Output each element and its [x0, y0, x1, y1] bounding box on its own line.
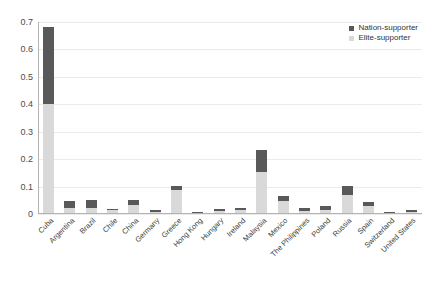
x-label-column: Brazil [81, 215, 102, 283]
bar-column [123, 22, 144, 214]
bar-column [230, 22, 251, 214]
legend-swatch-icon [349, 36, 354, 41]
bar-stack [86, 200, 97, 214]
bar-segment-nation-supporter [86, 200, 97, 208]
plot-area: 00.10.20.30.40.50.60.7 [38, 22, 422, 214]
x-axis-labels: CubaArgentinaBrazilChileChinaGermanyGree… [38, 215, 422, 283]
bars-layer [38, 22, 422, 214]
x-label-column: Hong Kong [187, 215, 208, 283]
bar-segment-nation-supporter [43, 27, 54, 104]
x-label-column: Ireland [230, 215, 251, 283]
y-axis-tick-label: 0.2 [20, 154, 33, 164]
bar-column [166, 22, 187, 214]
bar-column [401, 22, 422, 214]
x-label-column: Cuba [38, 215, 59, 283]
bar-stack [342, 186, 353, 214]
bar-stack [256, 150, 267, 214]
bar-stack [128, 200, 139, 214]
x-label-column: Hungary [209, 215, 230, 283]
bar-stack [171, 186, 182, 214]
bar-segment-nation-supporter [342, 186, 353, 195]
stacked-bar-chart: 00.10.20.30.40.50.60.7 CubaArgentinaBraz… [0, 0, 430, 284]
bar-column [209, 22, 230, 214]
bar-column [337, 22, 358, 214]
bar-column [81, 22, 102, 214]
x-axis-tick-label: Brazil [78, 216, 98, 236]
legend-label: Nation-supporter [358, 24, 418, 32]
y-axis-tick-label: 0.6 [20, 44, 33, 54]
y-axis-tick-label: 0.3 [20, 127, 33, 137]
bar-column [102, 22, 123, 214]
x-label-column: Chile [102, 215, 123, 283]
x-label-column: Argentina [59, 215, 80, 283]
x-label-column: Russia [337, 215, 358, 283]
bar-segment-elite-supporter [342, 195, 353, 214]
legend-label: Elite-supporter [358, 34, 410, 42]
bar-segment-elite-supporter [256, 172, 267, 215]
y-axis-tick-label: 0 [28, 209, 33, 219]
legend-item: Nation-supporter [349, 24, 418, 32]
x-axis-tick-label: Chile [101, 216, 119, 234]
x-label-column: United States [401, 215, 422, 283]
bar-segment-elite-supporter [171, 190, 182, 214]
bar-column [59, 22, 80, 214]
legend-swatch-icon [349, 26, 354, 31]
bar-column [187, 22, 208, 214]
bar-segment-nation-supporter [256, 150, 267, 171]
x-label-column: Malaysia [251, 215, 272, 283]
chart-legend: Nation-supporterElite-supporter [349, 24, 418, 42]
y-axis-tick-label: 0.7 [20, 17, 33, 27]
bar-column [358, 22, 379, 214]
x-axis-line [38, 213, 422, 214]
y-axis-line [38, 22, 39, 214]
bar-column [273, 22, 294, 214]
x-label-column: Greece [166, 215, 187, 283]
x-label-column: Poland [315, 215, 336, 283]
bar-column [315, 22, 336, 214]
bar-column [294, 22, 315, 214]
bar-column [379, 22, 400, 214]
bar-segment-elite-supporter [43, 104, 54, 214]
bar-column [38, 22, 59, 214]
bar-stack [43, 27, 54, 214]
y-axis-tick-label: 0.1 [20, 182, 33, 192]
bar-stack [278, 196, 289, 214]
legend-item: Elite-supporter [349, 34, 418, 42]
bar-column [145, 22, 166, 214]
bar-column [251, 22, 272, 214]
bar-segment-nation-supporter [64, 201, 75, 208]
y-axis-tick-label: 0.4 [20, 99, 33, 109]
x-label-column: China [123, 215, 144, 283]
x-label-column: Germany [145, 215, 166, 283]
y-axis-tick-label: 0.5 [20, 72, 33, 82]
x-label-column: The Philippines [294, 215, 315, 283]
